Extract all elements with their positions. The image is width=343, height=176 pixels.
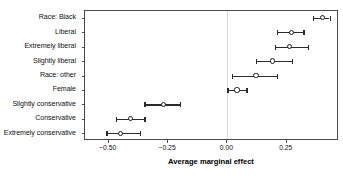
x-axis-tick-label: −0.25	[158, 144, 175, 151]
ci-upper-cap	[246, 88, 247, 93]
category-tick	[82, 61, 85, 62]
ci-upper-cap	[330, 16, 331, 21]
category-tick	[82, 47, 85, 48]
ci-upper-cap	[140, 131, 141, 136]
x-axis-tick-label: 0.00	[220, 144, 233, 151]
zero-reference-line	[227, 11, 228, 139]
ci-upper-cap	[144, 117, 145, 122]
point-estimate-marker	[128, 116, 133, 121]
x-axis-tick	[167, 140, 168, 143]
category-tick	[82, 104, 85, 105]
point-estimate-marker	[118, 131, 123, 136]
ci-lower-cap	[144, 102, 145, 107]
x-axis-tick	[286, 140, 287, 143]
point-estimate-marker	[289, 30, 294, 35]
category-tick	[82, 18, 85, 19]
ci-lower-cap	[313, 16, 314, 21]
point-estimate-marker	[253, 73, 258, 78]
ci-upper-cap	[292, 59, 293, 64]
category-tick	[82, 76, 85, 77]
ci-lower-cap	[227, 88, 228, 93]
category-label: Race: other	[40, 71, 76, 79]
category-tick	[82, 119, 85, 120]
category-label: Liberal	[55, 28, 76, 36]
coefficient-plot-figure: Race: BlackLiberalExtremely liberalSligh…	[0, 0, 343, 176]
ci-upper-cap	[180, 102, 181, 107]
point-estimate-marker	[270, 58, 275, 63]
category-tick	[82, 133, 85, 134]
ci-lower-cap	[275, 45, 276, 50]
category-tick	[82, 32, 85, 33]
point-estimate-marker	[234, 87, 239, 92]
x-axis-title: Average marginal effect	[84, 157, 338, 166]
x-axis-tick-label: 0.25	[279, 144, 292, 151]
point-estimate-marker	[161, 102, 166, 107]
category-axis-labels: Race: BlackLiberalExtremely liberalSligh…	[0, 10, 80, 140]
point-estimate-marker	[287, 44, 292, 49]
category-label: Conservative	[35, 114, 76, 122]
category-label: Extremely conservative	[4, 129, 76, 137]
category-label: Slightly conservative	[12, 100, 76, 108]
ci-upper-cap	[308, 45, 309, 50]
x-axis-tick-label: −0.50	[99, 144, 116, 151]
point-estimate-marker	[320, 15, 325, 20]
ci-lower-cap	[256, 59, 257, 64]
ci-lower-cap	[116, 117, 117, 122]
category-label: Race: Black	[39, 13, 76, 21]
category-label: Slightly liberal	[33, 57, 76, 65]
x-axis-tick	[108, 140, 109, 143]
ci-lower-cap	[277, 30, 278, 35]
plot-area	[84, 10, 338, 140]
ci-lower-cap	[232, 74, 233, 79]
category-tick	[82, 90, 85, 91]
category-label: Female	[53, 85, 76, 93]
ci-upper-cap	[303, 30, 304, 35]
x-axis-tick	[226, 140, 227, 143]
ci-lower-cap	[106, 131, 107, 136]
category-label: Extremely liberal	[24, 42, 76, 50]
ci-upper-cap	[277, 74, 278, 79]
